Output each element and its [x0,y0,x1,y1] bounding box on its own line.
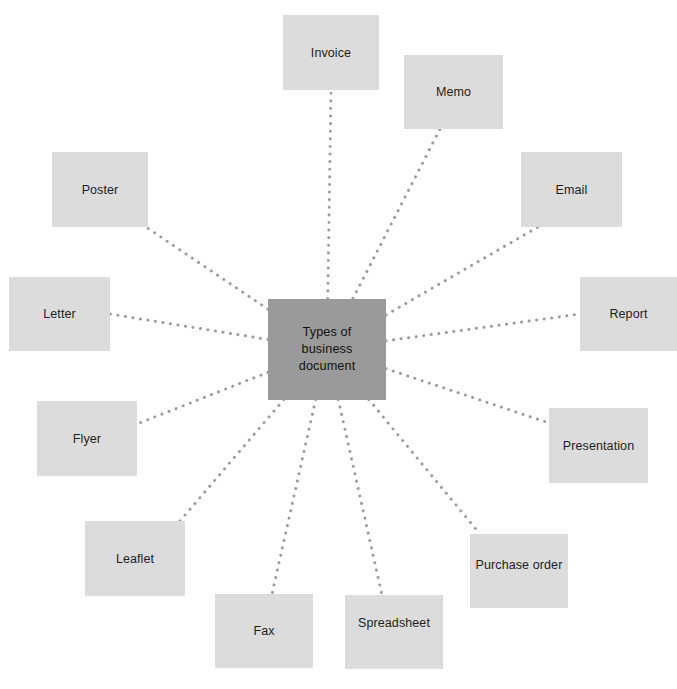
node-report[interactable]: Report [580,277,677,351]
node-letter[interactable]: Letter [9,277,110,351]
connector-hub-to-invoice [328,90,331,299]
node-spreadsheet[interactable]: Spreadsheet [345,595,443,669]
node-email[interactable]: Email [521,152,622,227]
connector-hub-to-email [386,227,538,315]
node-label-poster: Poster [78,182,123,198]
hub-node-label: Types of business document [295,324,360,375]
connector-hub-to-spreadsheet [338,400,382,596]
node-invoice[interactable]: Invoice [283,15,379,90]
connector-hub-to-flyer [137,372,268,424]
connector-hub-to-leaflet [180,400,284,522]
node-label-leaflet: Leaflet [112,551,158,567]
connector-hub-to-report [386,314,580,341]
connector-hub-to-fax [272,400,316,595]
connector-hub-to-presentation [386,369,552,424]
hub-node-types-of-business-document[interactable]: Types of business document [268,299,386,400]
diagram-canvas: InvoiceMemoEmailReportPresentationPurcha… [0,0,677,689]
node-poster[interactable]: Poster [52,152,148,227]
connector-hub-to-purchase-order [369,400,480,535]
node-label-purchase-order: Purchase order [472,557,567,573]
connector-hub-to-poster [146,227,268,309]
node-label-report: Report [605,306,651,322]
node-label-memo: Memo [432,84,475,100]
connector-hub-to-memo [353,129,440,299]
node-presentation[interactable]: Presentation [549,408,648,483]
node-label-invoice: Invoice [307,45,355,61]
node-label-email: Email [552,182,592,198]
connector-hub-to-letter [110,314,268,339]
node-leaflet[interactable]: Leaflet [85,521,185,596]
node-label-letter: Letter [39,306,80,322]
node-flyer[interactable]: Flyer [37,401,137,476]
node-memo[interactable]: Memo [404,55,503,129]
node-fax[interactable]: Fax [215,594,313,668]
node-purchase-order[interactable]: Purchase order [470,534,568,608]
node-label-fax: Fax [249,623,278,639]
node-label-presentation: Presentation [559,438,638,454]
node-label-spreadsheet: Spreadsheet [354,615,434,631]
node-label-flyer: Flyer [69,431,105,447]
